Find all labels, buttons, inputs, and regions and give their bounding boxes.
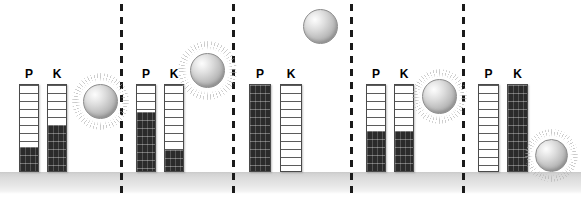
ground-surface <box>0 172 581 194</box>
gauge-potential: P <box>249 84 271 172</box>
gauge-tube <box>394 84 414 172</box>
gauge-scale-ticks <box>479 85 498 171</box>
gauge-tube <box>507 84 528 172</box>
gauge-potential: P <box>136 84 156 172</box>
gauge-tube <box>249 84 271 172</box>
gauge-fill <box>165 150 183 172</box>
gauge-label: P <box>19 68 39 80</box>
gauge-fill <box>48 125 66 171</box>
sphere-icon <box>83 84 118 119</box>
ball <box>422 79 457 114</box>
sphere-icon <box>422 79 457 114</box>
gauge-tube <box>366 84 386 172</box>
divider-2 <box>232 4 235 196</box>
divider-3 <box>350 4 353 196</box>
gauge-label: P <box>366 68 386 80</box>
sphere-icon <box>535 139 568 172</box>
gauge-kinetic: K <box>164 84 184 172</box>
gauge-fill <box>508 85 527 171</box>
divider-4 <box>462 4 465 196</box>
gauge-label: P <box>249 68 271 80</box>
divider-1 <box>120 4 123 196</box>
gauge-fill <box>367 131 385 171</box>
gauge-tube <box>19 84 39 172</box>
gauge-kinetic: K <box>47 84 67 172</box>
gauge-tube <box>47 84 67 172</box>
gauge-fill <box>395 131 413 171</box>
gauge-tube <box>164 84 184 172</box>
gauge-label: K <box>280 68 302 80</box>
ball <box>535 139 568 172</box>
gauge-tube <box>136 84 156 172</box>
gauge-scale-ticks <box>281 85 301 171</box>
gauge-fill <box>250 85 270 171</box>
gauge-potential: P <box>478 84 499 172</box>
gauge-fill <box>137 112 155 171</box>
ball <box>83 84 118 119</box>
ball <box>303 9 338 44</box>
gauge-tube <box>478 84 499 172</box>
gauge-potential: P <box>19 84 39 172</box>
gauge-label: P <box>136 68 156 80</box>
gauge-label: K <box>507 68 528 80</box>
gauge-tube <box>280 84 302 172</box>
gauge-label: K <box>394 68 414 80</box>
gauge-kinetic: K <box>507 84 528 172</box>
gauge-kinetic: K <box>280 84 302 172</box>
sphere-icon <box>190 53 225 88</box>
ball <box>190 53 225 88</box>
gauge-fill <box>20 147 38 171</box>
sphere-icon <box>303 9 338 44</box>
energy-diagram: PKPKPKPKPK <box>0 0 581 204</box>
gauge-label: K <box>47 68 67 80</box>
gauge-label: P <box>478 68 499 80</box>
gauge-kinetic: K <box>394 84 414 172</box>
gauge-label: K <box>164 68 184 80</box>
gauge-potential: P <box>366 84 386 172</box>
